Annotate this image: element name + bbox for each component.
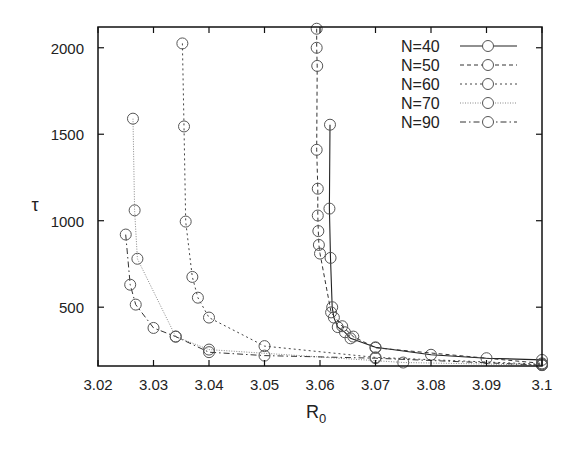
legend-item: N=60 bbox=[401, 76, 517, 93]
legend-marker bbox=[483, 98, 494, 109]
y-tick-label: 1000 bbox=[51, 213, 84, 230]
y-tick-label: 2000 bbox=[51, 40, 84, 57]
legend-item: N=70 bbox=[401, 95, 517, 112]
legend-item: N=50 bbox=[401, 57, 517, 74]
legend-label: N=60 bbox=[401, 76, 440, 93]
x-tick-label: 3.05 bbox=[250, 376, 279, 393]
x-tick-label: 3.03 bbox=[139, 376, 168, 393]
series-line bbox=[182, 43, 542, 364]
legend-item: N=90 bbox=[401, 114, 517, 131]
y-axis-label: τ bbox=[31, 195, 38, 215]
data-point bbox=[127, 113, 138, 124]
series-line bbox=[329, 125, 542, 360]
x-axis-label-main: R bbox=[306, 402, 319, 422]
series-n-40 bbox=[324, 119, 548, 365]
data-point bbox=[180, 216, 191, 227]
x-tick-label: 3.06 bbox=[305, 376, 334, 393]
legend-label: N=50 bbox=[401, 57, 440, 74]
y-axis: 500100015002000 bbox=[51, 40, 542, 316]
data-point bbox=[187, 271, 198, 282]
series-n-90 bbox=[120, 229, 547, 371]
x-axis-label-subscript: 0 bbox=[319, 411, 326, 426]
legend-marker bbox=[483, 79, 494, 90]
series-line bbox=[126, 235, 542, 366]
legend: N=40N=50N=60N=70N=90 bbox=[401, 38, 517, 131]
legend-label: N=70 bbox=[401, 95, 440, 112]
series-layer bbox=[120, 23, 547, 370]
y-tick-label: 500 bbox=[59, 299, 84, 316]
x-tick-label: 3.04 bbox=[194, 376, 223, 393]
x-tick-label: 3.07 bbox=[361, 376, 390, 393]
legend-marker bbox=[483, 60, 494, 71]
x-tick-label: 3.08 bbox=[416, 376, 445, 393]
x-axis-label: R0 bbox=[306, 402, 326, 426]
data-point bbox=[204, 312, 215, 323]
legend-marker bbox=[483, 41, 494, 52]
legend-marker bbox=[483, 117, 494, 128]
series-n-70 bbox=[127, 113, 547, 370]
x-tick-label: 3.02 bbox=[83, 376, 112, 393]
legend-item: N=40 bbox=[401, 38, 517, 55]
legend-label: N=90 bbox=[401, 114, 440, 131]
x-tick-label: 3.09 bbox=[472, 376, 501, 393]
legend-label: N=40 bbox=[401, 38, 440, 55]
x-tick-label: 3.1 bbox=[532, 376, 553, 393]
y-tick-label: 1500 bbox=[51, 126, 84, 143]
chart: 3.023.033.043.053.063.073.083.093.1 5001… bbox=[0, 0, 576, 451]
